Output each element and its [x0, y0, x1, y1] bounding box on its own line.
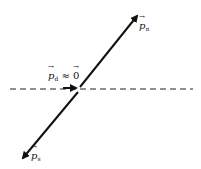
p-n-subscript: n	[145, 25, 149, 32]
p-d-subscript: d	[54, 75, 58, 82]
vector-p-n	[80, 16, 137, 87]
label-p-d: pd ≈ 0	[48, 71, 79, 82]
label-p-s: ps	[31, 151, 41, 162]
p-n-symbol: p	[139, 21, 145, 31]
p-s-symbol: p	[31, 151, 37, 161]
p-d-symbol: p	[48, 71, 54, 81]
p-s-subscript: s	[37, 155, 40, 162]
label-p-n: pn	[139, 21, 149, 32]
diagram-canvas: pn pd ≈ 0 ps	[0, 0, 201, 169]
p-d-relation: ≈	[61, 70, 69, 81]
p-d-rhs: 0	[73, 71, 79, 81]
